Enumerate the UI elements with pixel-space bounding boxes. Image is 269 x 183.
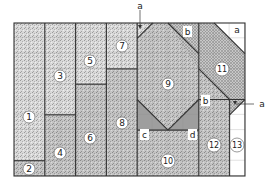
label-7: 7 bbox=[116, 40, 128, 52]
label-6: 6 bbox=[84, 132, 96, 144]
svg-text:11: 11 bbox=[217, 65, 227, 74]
label-c: c bbox=[142, 130, 147, 140]
svg-text:12: 12 bbox=[209, 141, 219, 150]
svg-text:7: 7 bbox=[119, 41, 125, 51]
quilt-layout-diagram: 1 2 3 4 5 6 7 8 9 10 11 12 13 a b a b a … bbox=[0, 0, 269, 183]
label-b-mid: b bbox=[203, 96, 209, 106]
label-11: 11 bbox=[215, 62, 229, 76]
label-12: 12 bbox=[207, 138, 221, 152]
label-b-top: b bbox=[185, 27, 191, 37]
svg-text:5: 5 bbox=[87, 56, 93, 66]
label-d: d bbox=[190, 130, 196, 140]
label-1: 1 bbox=[23, 111, 35, 123]
label-8: 8 bbox=[116, 117, 128, 129]
label-a-corner: a bbox=[234, 25, 240, 35]
svg-text:13: 13 bbox=[232, 141, 242, 150]
label-a-top: a bbox=[137, 1, 143, 11]
label-2: 2 bbox=[23, 163, 35, 175]
svg-text:9: 9 bbox=[165, 79, 171, 89]
svg-text:10: 10 bbox=[163, 157, 173, 166]
svg-text:1: 1 bbox=[26, 112, 32, 122]
svg-text:3: 3 bbox=[57, 71, 63, 81]
label-9: 9 bbox=[162, 78, 174, 90]
svg-text:6: 6 bbox=[87, 133, 93, 143]
label-4: 4 bbox=[54, 147, 66, 159]
svg-text:2: 2 bbox=[26, 164, 32, 174]
label-5: 5 bbox=[84, 55, 96, 67]
label-10: 10 bbox=[161, 154, 175, 168]
label-3: 3 bbox=[54, 70, 66, 82]
svg-text:4: 4 bbox=[57, 148, 63, 158]
label-13: 13 bbox=[230, 138, 244, 152]
svg-text:8: 8 bbox=[119, 118, 125, 128]
label-a-right: a bbox=[259, 99, 265, 109]
